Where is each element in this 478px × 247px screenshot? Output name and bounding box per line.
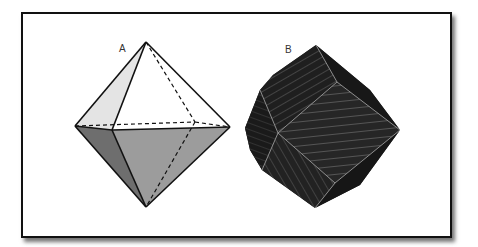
label-a: A (119, 43, 126, 54)
octa-face-lower-front (112, 127, 230, 207)
octahedron-a: A (75, 42, 230, 207)
polyhedra-figure: A B (0, 0, 478, 247)
label-b: B (285, 44, 292, 55)
rhombic-dodecahedron-b: B (245, 44, 400, 208)
